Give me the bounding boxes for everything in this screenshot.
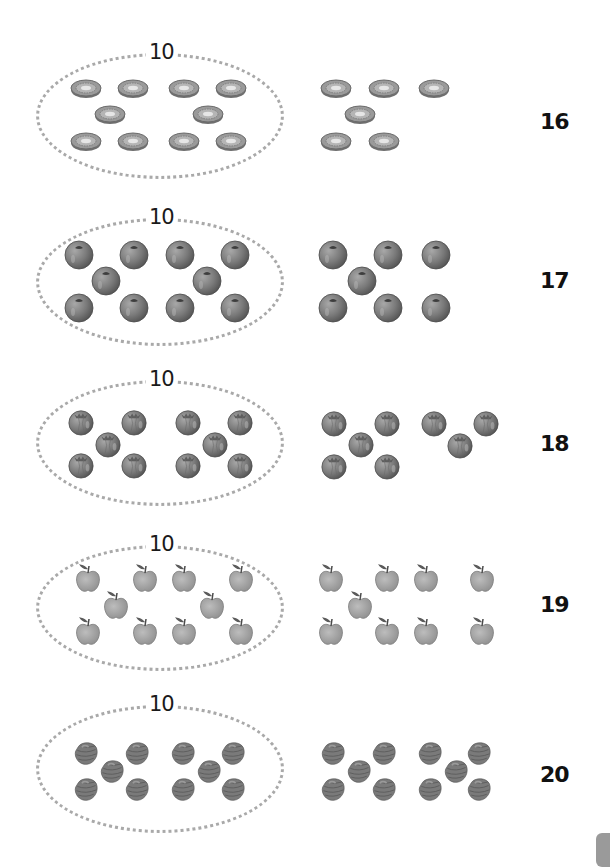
apple-icon xyxy=(469,615,495,647)
apple-icon xyxy=(469,562,495,594)
strawberry-icon xyxy=(466,776,492,802)
apple-icon xyxy=(132,562,158,594)
apple-icon xyxy=(228,615,254,647)
kiwi-icon xyxy=(168,132,200,152)
strawberry-icon xyxy=(170,776,196,802)
tomato-icon xyxy=(446,431,474,459)
strawberry-icon xyxy=(196,758,222,784)
apple-icon xyxy=(132,615,158,647)
group-of-ten-ring xyxy=(36,218,284,346)
kiwi-icon xyxy=(117,132,149,152)
strawberry-icon xyxy=(466,740,492,766)
tomato-icon xyxy=(420,409,448,437)
kiwi-icon xyxy=(368,79,400,99)
tomato-icon xyxy=(472,409,500,437)
blueberry-icon xyxy=(421,293,451,323)
apple-icon xyxy=(171,615,197,647)
tomato-icon xyxy=(201,430,229,458)
blueberry-icon xyxy=(373,293,403,323)
strawberry-icon xyxy=(417,776,443,802)
tomato-icon xyxy=(120,451,148,479)
blueberry-icon xyxy=(64,293,94,323)
blueberry-icon xyxy=(119,293,149,323)
kiwi-icon xyxy=(117,79,149,99)
kiwi-icon xyxy=(320,132,352,152)
apple-icon xyxy=(413,562,439,594)
tomato-icon xyxy=(67,451,95,479)
group-of-ten-label: 10 xyxy=(146,533,177,555)
tomato-icon xyxy=(373,452,401,480)
group-of-ten-label: 10 xyxy=(146,41,177,63)
apple-icon xyxy=(347,589,373,621)
blueberry-icon xyxy=(318,293,348,323)
tomato-icon xyxy=(320,409,348,437)
strawberry-icon xyxy=(73,740,99,766)
apple-icon xyxy=(374,562,400,594)
total-count-label: 18 xyxy=(540,431,569,456)
kiwi-icon xyxy=(320,79,352,99)
blueberry-icon xyxy=(421,240,451,270)
total-count-label: 20 xyxy=(540,762,569,787)
tomato-icon xyxy=(174,408,202,436)
total-count-label: 19 xyxy=(540,592,569,617)
apple-icon xyxy=(103,589,129,621)
tomato-icon xyxy=(226,451,254,479)
tomato-icon xyxy=(94,430,122,458)
group-of-ten-ring xyxy=(36,705,284,833)
tomato-icon xyxy=(67,408,95,436)
blueberry-icon xyxy=(220,293,250,323)
strawberry-icon xyxy=(170,740,196,766)
group-of-ten-label: 10 xyxy=(146,368,177,390)
kiwi-icon xyxy=(215,79,247,99)
kiwi-icon xyxy=(368,132,400,152)
strawberry-icon xyxy=(320,776,346,802)
blueberry-icon xyxy=(220,240,250,270)
total-count-label: 16 xyxy=(540,109,569,134)
apple-icon xyxy=(374,615,400,647)
kiwi-icon xyxy=(215,132,247,152)
kiwi-icon xyxy=(192,105,224,125)
strawberry-icon xyxy=(417,740,443,766)
tomato-icon xyxy=(373,409,401,437)
kiwi-icon xyxy=(94,105,126,125)
blueberry-icon xyxy=(165,293,195,323)
strawberry-icon xyxy=(346,758,372,784)
strawberry-icon xyxy=(371,740,397,766)
group-of-ten-label: 10 xyxy=(146,693,177,715)
kiwi-icon xyxy=(168,79,200,99)
total-count-label: 17 xyxy=(540,268,569,293)
kiwi-icon xyxy=(418,79,450,99)
kiwi-icon xyxy=(70,79,102,99)
strawberry-icon xyxy=(220,740,246,766)
strawberry-icon xyxy=(371,776,397,802)
blueberry-icon xyxy=(64,240,94,270)
blueberry-icon xyxy=(347,266,377,296)
tomato-icon xyxy=(120,408,148,436)
blueberry-icon xyxy=(119,240,149,270)
apple-icon xyxy=(199,589,225,621)
strawberry-icon xyxy=(124,740,150,766)
tomato-icon xyxy=(226,408,254,436)
strawberry-icon xyxy=(220,776,246,802)
apple-icon xyxy=(413,615,439,647)
group-of-ten-ring xyxy=(36,380,284,506)
blueberry-icon xyxy=(192,266,222,296)
kiwi-icon xyxy=(70,132,102,152)
strawberry-icon xyxy=(73,776,99,802)
blueberry-icon xyxy=(165,240,195,270)
group-of-ten-label: 10 xyxy=(146,206,177,228)
strawberry-icon xyxy=(320,740,346,766)
apple-icon xyxy=(75,562,101,594)
apple-icon xyxy=(171,562,197,594)
kiwi-icon xyxy=(344,105,376,125)
strawberry-icon xyxy=(99,758,125,784)
apple-icon xyxy=(75,615,101,647)
blueberry-icon xyxy=(373,240,403,270)
tomato-icon xyxy=(347,430,375,458)
tomato-icon xyxy=(320,452,348,480)
page-edge-tab xyxy=(596,833,610,867)
tomato-icon xyxy=(174,451,202,479)
group-of-ten-ring xyxy=(36,53,284,179)
apple-icon xyxy=(228,562,254,594)
blueberry-icon xyxy=(91,266,121,296)
